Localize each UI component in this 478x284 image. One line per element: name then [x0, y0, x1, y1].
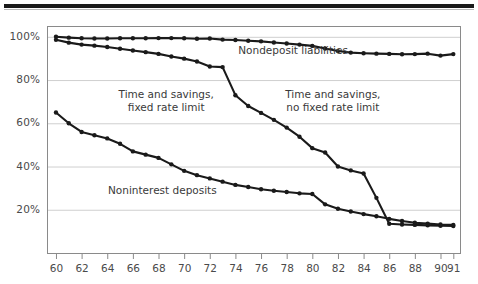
data-point [92, 133, 96, 137]
data-point [182, 36, 186, 40]
data-point [79, 36, 83, 40]
data-point [67, 35, 71, 39]
data-point [195, 59, 199, 63]
data-point [131, 36, 135, 40]
data-point [182, 56, 186, 60]
line-chart [0, 0, 478, 284]
data-point [297, 134, 301, 138]
data-point [182, 169, 186, 173]
data-point [220, 37, 224, 41]
data-point [413, 52, 417, 56]
data-point [246, 104, 250, 108]
x-axis-tick-label: 78 [280, 262, 293, 274]
data-point [336, 206, 340, 210]
x-axis-tick-label: 84 [357, 262, 370, 274]
x-axis-tick-label: 66 [127, 262, 140, 274]
data-point [310, 146, 314, 150]
series-1 [54, 38, 456, 229]
data-point [208, 36, 212, 40]
data-point [246, 39, 250, 43]
data-point [272, 118, 276, 122]
data-point [79, 42, 83, 46]
x-axis-tick-label: 91 [447, 262, 460, 274]
data-point [220, 179, 224, 183]
data-point [284, 125, 288, 129]
figure-root: 100%80%60%40%20%606264666870727476788082… [0, 0, 478, 284]
y-axis-tick-label: 80% [2, 73, 40, 85]
y-axis-tick-label: 100% [2, 30, 40, 42]
data-point [169, 54, 173, 58]
chart-plot-area: 100%80%60%40%20%606264666870727476788082… [0, 0, 478, 284]
x-axis-tick-label: 86 [383, 262, 396, 274]
data-point [361, 212, 365, 216]
data-point [195, 37, 199, 41]
data-point [233, 38, 237, 42]
data-point [105, 36, 109, 40]
data-point [438, 222, 442, 226]
data-point [208, 176, 212, 180]
x-axis-tick-label: 80 [306, 262, 319, 274]
x-axis-tick-label: 64 [101, 262, 114, 274]
x-axis-tick-label: 74 [229, 262, 242, 274]
data-point [349, 209, 353, 213]
data-point [246, 185, 250, 189]
data-point [297, 191, 301, 195]
x-axis-tick-label: 62 [75, 262, 88, 274]
data-point [336, 164, 340, 168]
data-point [374, 214, 378, 218]
data-point [233, 93, 237, 97]
data-point [374, 51, 378, 55]
data-point [361, 171, 365, 175]
data-point [143, 50, 147, 54]
x-axis-tick-label: 60 [50, 262, 63, 274]
data-point [349, 50, 353, 54]
data-point [272, 189, 276, 193]
data-point [105, 45, 109, 49]
data-point [67, 40, 71, 44]
data-point [143, 152, 147, 156]
data-point [131, 149, 135, 153]
data-point [387, 217, 391, 221]
time-savings-nofixed-label: Time and savings, no fixed rate limit [285, 88, 380, 113]
data-point [169, 36, 173, 40]
data-point [425, 51, 429, 55]
x-axis-tick-label: 68 [152, 262, 165, 274]
series-2 [54, 110, 456, 227]
data-point [169, 162, 173, 166]
data-point [323, 150, 327, 154]
x-axis-tick-label: 70 [178, 262, 191, 274]
x-axis-tick-label: 88 [409, 262, 422, 274]
data-point [156, 52, 160, 56]
data-point [67, 121, 71, 125]
noninterest-deposits-label: Noninterest deposits [108, 184, 217, 197]
x-axis-tick-label: 72 [204, 262, 217, 274]
data-point [54, 38, 58, 42]
data-point [156, 36, 160, 40]
data-point [208, 64, 212, 68]
data-point [118, 47, 122, 51]
data-point [195, 173, 199, 177]
data-point [451, 223, 455, 227]
x-axis-tick-label: 76 [255, 262, 268, 274]
data-point [118, 36, 122, 40]
data-point [387, 52, 391, 56]
data-point [79, 130, 83, 134]
series-line [56, 112, 453, 224]
data-point [438, 53, 442, 57]
data-point [259, 187, 263, 191]
data-point [92, 43, 96, 47]
data-point [413, 221, 417, 225]
series-line [56, 40, 453, 226]
data-point [374, 196, 378, 200]
data-point [259, 111, 263, 115]
data-point [54, 110, 58, 114]
data-point [131, 48, 135, 52]
y-axis-tick-label: 60% [2, 116, 40, 128]
data-point [387, 222, 391, 226]
data-point [425, 221, 429, 225]
data-point [92, 36, 96, 40]
data-point [105, 136, 109, 140]
data-point [156, 156, 160, 160]
data-point [220, 65, 224, 69]
data-point [400, 219, 404, 223]
